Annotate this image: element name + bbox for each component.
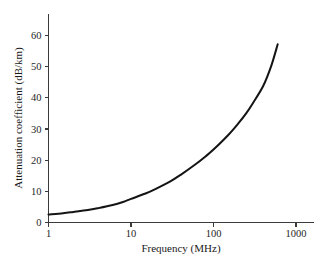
y-tick-label: 40 [31,92,42,103]
x-tick-label: 100 [206,228,222,239]
y-axis-title: Attenuation coefficient (dB/km) [12,47,25,189]
y-tick-label: 30 [31,124,42,135]
chart-figure: 0102030405060 1101001000 Frequency (MHz)… [0,0,328,266]
y-tick-label: 50 [31,61,42,72]
y-tick-label: 20 [31,155,42,166]
attenuation-vs-frequency-chart: 0102030405060 1101001000 Frequency (MHz)… [0,0,328,266]
x-tick-label: 10 [126,228,137,239]
x-tick-label: 1000 [286,228,307,239]
attenuation-curve [49,44,278,214]
y-tick-label: 0 [36,217,41,228]
y-tick-label: 10 [31,186,42,197]
y-tick-label: 60 [31,30,42,41]
x-axis-title: Frequency (MHz) [141,242,220,255]
y-axis-ticks: 0102030405060 [31,30,49,228]
x-axis-ticks: 1101001000 [46,223,307,240]
plot-axes [48,14,314,223]
x-tick-label: 1 [46,228,51,239]
